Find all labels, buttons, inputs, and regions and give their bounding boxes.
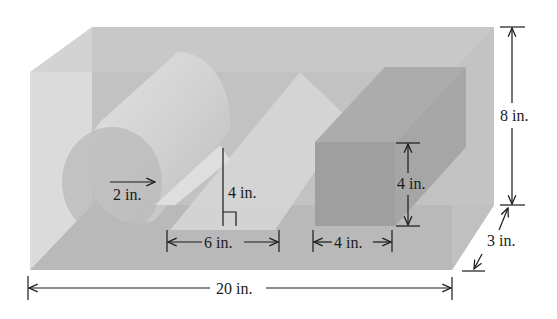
label-cube-height: 4 in.: [397, 175, 425, 192]
label-prism-height: 4 in.: [228, 184, 256, 201]
label-box-depth: 3 in.: [487, 232, 515, 249]
label-box-height: 8 in.: [500, 107, 528, 124]
label-box-length: 20 in.: [216, 280, 252, 297]
cube-front: [315, 142, 395, 226]
label-cylinder-radius: 2 in.: [113, 186, 141, 203]
label-cube-width: 4 in.: [334, 234, 362, 251]
label-prism-base: 6 in.: [204, 234, 232, 251]
box-with-solids-diagram: 8 in. 3 in. 20 in. 2 in. 4 in. 6 in. 4 i…: [0, 0, 557, 319]
dimension-box-height: 8 in.: [500, 27, 528, 205]
dimension-box-length: 20 in.: [28, 276, 452, 300]
